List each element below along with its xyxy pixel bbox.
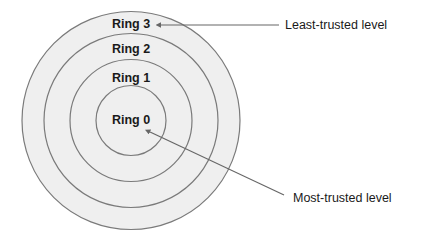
ring-0-label: Ring 0 xyxy=(112,113,150,127)
ring-1-label: Ring 1 xyxy=(112,71,150,85)
protection-rings-diagram: Ring 3 Ring 2 Ring 1 Ring 0 Least-truste… xyxy=(0,0,421,249)
ring-3-label: Ring 3 xyxy=(112,17,150,31)
most-trusted-label: Most-trusted level xyxy=(293,191,392,205)
ring-2-label: Ring 2 xyxy=(112,42,150,56)
least-trusted-label: Least-trusted level xyxy=(285,18,387,32)
